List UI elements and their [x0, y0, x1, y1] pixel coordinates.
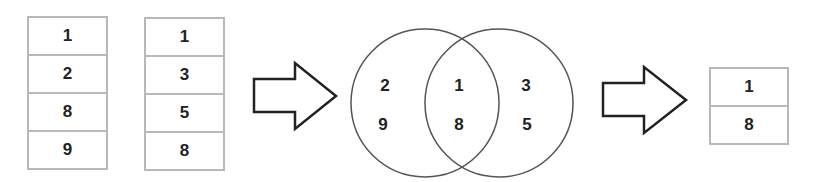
venn-left-value: 2 [380, 76, 389, 96]
venn-intersection-value: 8 [454, 115, 463, 135]
venn-right-value: 5 [522, 115, 531, 135]
venn-right-value: 3 [521, 76, 530, 96]
venn-left-value: 9 [378, 115, 387, 135]
arrow-right-icon [254, 63, 336, 129]
venn-intersection-value: 1 [454, 76, 463, 96]
result-cell: 8 [711, 107, 787, 143]
diagram-shapes [0, 0, 814, 182]
result-cell: 1 [711, 69, 787, 107]
result-table: 1 8 [709, 67, 789, 145]
arrow-right-icon [603, 67, 686, 133]
